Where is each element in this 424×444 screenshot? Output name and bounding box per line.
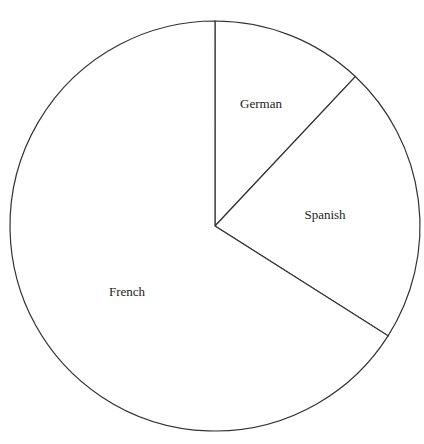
slice-label-french: French [109,284,145,300]
slice-label-spanish: Spanish [304,207,345,223]
pie-chart [0,0,424,444]
slice-label-german: German [240,96,282,112]
